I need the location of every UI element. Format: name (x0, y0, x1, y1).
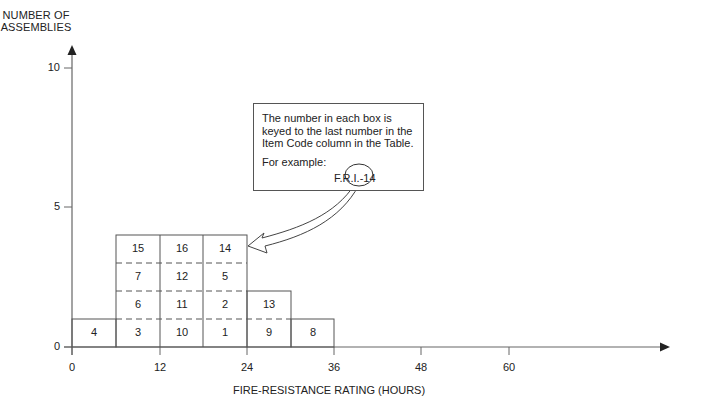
cell-label: 11 (160, 298, 204, 310)
cell-label: 4 (72, 326, 116, 338)
callout-example-code: F.R.I.-14 (334, 172, 376, 184)
x-tick-0: 0 (57, 361, 87, 373)
callout-example-label: For example: (262, 156, 326, 168)
callout-arrow-icon (248, 184, 359, 253)
x-tick-36: 36 (319, 361, 349, 373)
cell-label: 8 (291, 326, 335, 338)
y-axis-arrow-icon (68, 45, 77, 55)
callout-code-number: 14 (363, 172, 375, 184)
y-axis-label: NUMBER OF ASSEMBLIES (0, 9, 72, 33)
x-axis-label: FIRE-RESISTANCE RATING (HOURS) (233, 384, 425, 396)
cell-label: 7 (116, 270, 160, 282)
y-tick-0: 0 (40, 340, 60, 352)
y-axis-label-line2: ASSEMBLIES (0, 21, 72, 33)
callout-code-prefix: F.R.I.- (334, 172, 363, 184)
cell-label: 10 (160, 326, 204, 338)
x-tick-48: 48 (406, 361, 436, 373)
cell-label: 6 (116, 298, 160, 310)
cell-label: 9 (247, 326, 291, 338)
callout-box: The number in each box is keyed to the l… (253, 103, 424, 191)
cell-label: 13 (247, 298, 291, 310)
cell-label: 16 (160, 242, 204, 254)
cell-label: 14 (203, 242, 247, 254)
y-axis-label-line1: NUMBER OF (0, 9, 72, 21)
cell-label: 5 (203, 270, 247, 282)
x-tick-24: 24 (232, 361, 262, 373)
cell-label: 1 (203, 326, 247, 338)
chart-graphics (0, 0, 705, 419)
callout-text: The number in each box is keyed to the l… (262, 112, 422, 150)
x-tick-60: 60 (494, 361, 524, 373)
cell-label: 2 (203, 298, 247, 310)
x-tick-12: 12 (145, 361, 175, 373)
cell-label: 3 (116, 326, 160, 338)
cell-label: 12 (160, 270, 204, 282)
x-axis-arrow-icon (660, 343, 670, 352)
y-tick-5: 5 (40, 200, 60, 212)
cell-label: 15 (116, 242, 160, 254)
y-tick-10: 10 (40, 61, 60, 73)
